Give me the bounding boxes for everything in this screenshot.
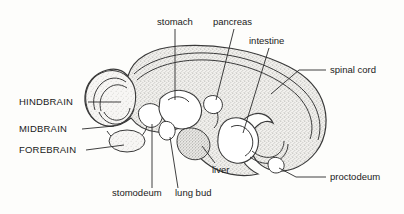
embryo-diagram-figure: stomach pancreas intestine spinal cord H… <box>0 0 404 214</box>
label-hindbrain: HINDBRAIN <box>19 96 73 107</box>
embryo-body <box>85 45 326 175</box>
embryo-diagram-canvas: stomach pancreas intestine spinal cord H… <box>0 0 404 214</box>
label-stomodeum: stomodeum <box>112 187 162 198</box>
label-lung-bud: lung bud <box>175 187 211 198</box>
pancreas-organ <box>204 96 223 114</box>
leader-midbrain <box>82 126 114 129</box>
lung-bud-organ <box>159 121 175 140</box>
label-proctodeum: proctodeum <box>330 171 380 182</box>
label-liver: liver <box>212 164 229 175</box>
forebrain-lobe <box>109 130 145 152</box>
label-midbrain: MIDBRAIN <box>19 123 67 134</box>
proctodeum-organ <box>268 157 284 173</box>
label-pancreas: pancreas <box>213 16 252 27</box>
label-spinal-cord: spinal cord <box>330 64 376 75</box>
label-intestine: intestine <box>249 35 284 46</box>
label-stomach: stomach <box>157 16 193 27</box>
label-forebrain: FOREBRAIN <box>19 144 76 155</box>
